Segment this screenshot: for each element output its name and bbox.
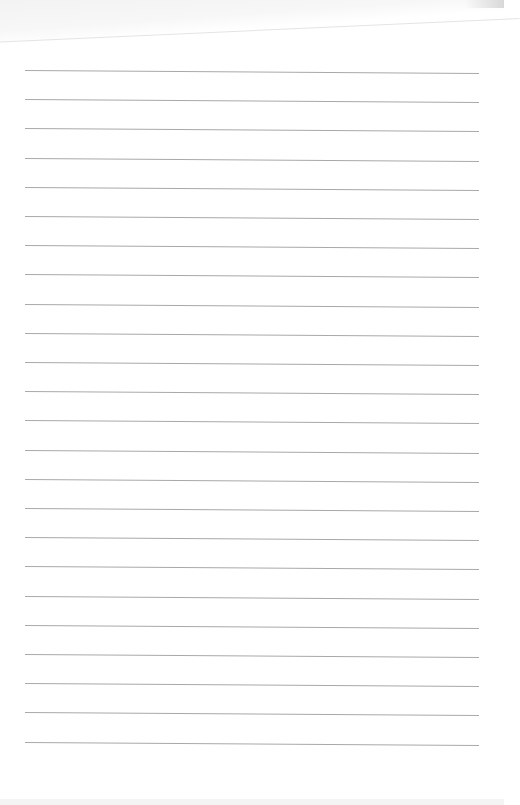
ruled-line bbox=[25, 158, 479, 162]
ruled-line bbox=[25, 625, 479, 629]
ruled-line bbox=[25, 362, 479, 366]
ruled-line bbox=[25, 274, 479, 278]
ruled-line bbox=[25, 479, 479, 483]
ruled-line bbox=[25, 245, 479, 249]
corner-shadow bbox=[464, 0, 504, 8]
ruled-line bbox=[25, 683, 479, 687]
ruled-line bbox=[25, 450, 479, 454]
ruled-line bbox=[25, 304, 479, 308]
ruled-line bbox=[25, 420, 479, 424]
ruled-line bbox=[25, 216, 479, 220]
bottom-shadow bbox=[0, 799, 504, 805]
top-shadow bbox=[0, 0, 504, 42]
ruled-line bbox=[25, 508, 479, 512]
ruled-line bbox=[25, 333, 479, 337]
ruled-line bbox=[25, 566, 479, 570]
ruled-line bbox=[25, 187, 479, 191]
ruled-line bbox=[25, 712, 479, 716]
ruled-line bbox=[25, 654, 479, 658]
ruled-line bbox=[25, 70, 479, 74]
ruled-line bbox=[25, 742, 479, 746]
ruled-line bbox=[25, 391, 479, 395]
ruled-line bbox=[25, 99, 479, 103]
ruled-line bbox=[25, 596, 479, 600]
ruled-line bbox=[25, 128, 479, 132]
ruled-line bbox=[25, 537, 479, 541]
